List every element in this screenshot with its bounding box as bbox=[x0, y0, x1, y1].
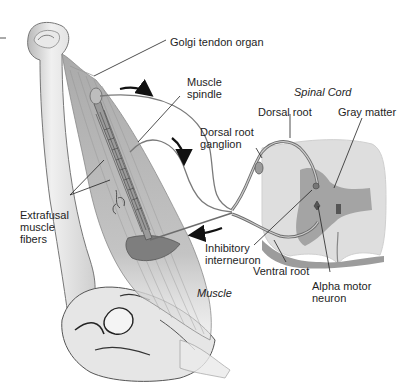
central-canal bbox=[336, 204, 341, 214]
label-golgi-tendon-organ: Golgi tendon organ bbox=[170, 36, 264, 48]
humerus-bone bbox=[28, 22, 95, 330]
inhibitory-interneuron bbox=[313, 183, 319, 189]
label-dorsal-root: Dorsal root bbox=[258, 106, 312, 118]
label-ventral-root: Ventral root bbox=[253, 265, 309, 277]
label-gray-matter: Gray matter bbox=[338, 106, 396, 118]
label-inhibitory-interneuron: Inhibitory interneuron bbox=[205, 242, 261, 266]
label-extrafusal-muscle-fibers: Extrafusal muscle fibers bbox=[20, 209, 69, 245]
spinal-cord bbox=[262, 140, 386, 269]
label-spinal-cord: Spinal Cord bbox=[294, 86, 351, 98]
label-dorsal-root-ganglion: Dorsal root ganglion bbox=[200, 126, 254, 150]
arrow-afferent-1 bbox=[120, 88, 150, 94]
label-muscle: Muscle bbox=[197, 287, 232, 299]
label-muscle-spindle: Muscle spindle bbox=[187, 76, 222, 100]
arrow-efferent bbox=[192, 228, 222, 235]
dorsal-root-ganglion bbox=[255, 162, 263, 174]
stretch-reflex-diagram: Golgi tendon organ Muscle spindle Spinal… bbox=[0, 0, 412, 385]
anatomy-illustration bbox=[0, 0, 412, 385]
label-alpha-motor-neuron: Alpha motor neuron bbox=[312, 280, 371, 304]
